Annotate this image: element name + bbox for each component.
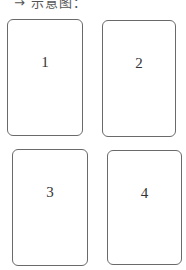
card-3: 3 [12, 149, 88, 266]
card-1: 1 [7, 19, 83, 136]
card-2: 2 [102, 20, 176, 137]
card-number: 4 [108, 185, 181, 202]
card-4: 4 [107, 150, 182, 265]
card-number: 3 [13, 184, 87, 201]
card-number: 2 [103, 55, 175, 72]
clipped-caption: → 示意图： [14, 0, 87, 11]
card-number: 1 [8, 54, 82, 71]
